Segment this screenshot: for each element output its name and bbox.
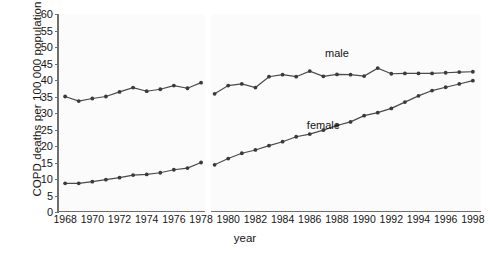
panel-break-gap — [205, 14, 211, 212]
data-point-female — [226, 157, 230, 161]
x-tick-label: 1998 — [461, 214, 484, 225]
y-tick-label: 20 — [41, 141, 53, 152]
x-tick-label: 1968 — [53, 214, 76, 225]
data-point-male — [376, 66, 380, 70]
y-tick-label: 15 — [41, 157, 53, 168]
data-point-male — [226, 84, 230, 88]
data-point-male — [335, 72, 339, 76]
x-tick-label: 1994 — [407, 214, 430, 225]
data-point-male — [90, 97, 94, 101]
data-point-male — [403, 72, 407, 76]
data-point-female — [403, 100, 407, 104]
data-point-male — [281, 73, 285, 77]
data-point-male — [104, 95, 108, 99]
y-tick-label: 35 — [41, 91, 53, 102]
data-point-male — [349, 73, 353, 77]
data-point-female — [417, 94, 421, 98]
data-point-male — [294, 75, 298, 79]
y-tick-label: 5 — [47, 190, 53, 201]
chart-figure: COPD deaths per 100 000 population year … — [0, 0, 490, 253]
y-tick-label: 25 — [41, 124, 53, 135]
data-point-female — [131, 173, 135, 177]
data-point-female — [444, 85, 448, 89]
series-line-male — [65, 83, 201, 101]
data-point-male — [77, 99, 81, 103]
x-tick-label: 1974 — [135, 214, 158, 225]
x-tick-label: 1978 — [189, 214, 212, 225]
data-point-female — [267, 144, 271, 148]
data-point-male — [389, 72, 393, 76]
x-tick-label: 1970 — [81, 214, 104, 225]
x-tick-label: 1976 — [162, 214, 185, 225]
data-point-male — [172, 84, 176, 88]
data-point-male — [444, 71, 448, 75]
x-tick-label: 1996 — [434, 214, 457, 225]
data-point-female — [118, 176, 122, 180]
data-point-male — [362, 74, 366, 78]
series-label-female: female — [307, 119, 340, 131]
data-point-male — [417, 72, 421, 76]
data-point-male — [199, 81, 203, 85]
y-tick-label: 30 — [41, 108, 53, 119]
data-point-female — [471, 79, 475, 83]
data-point-female — [254, 148, 258, 152]
data-point-female — [172, 168, 176, 172]
data-point-male — [63, 95, 67, 99]
data-point-male — [240, 82, 244, 86]
data-point-female — [63, 181, 67, 185]
data-point-male — [158, 87, 162, 91]
y-tick-label: 0 — [47, 207, 53, 218]
data-point-male — [131, 86, 135, 90]
data-point-male — [308, 69, 312, 73]
x-tick-label: 1988 — [325, 214, 348, 225]
data-point-male — [254, 86, 258, 90]
x-tick-label: 1980 — [217, 214, 240, 225]
data-point-male — [267, 75, 271, 79]
data-point-female — [199, 161, 203, 165]
x-tick-label: 1986 — [298, 214, 321, 225]
data-point-male — [186, 86, 190, 90]
data-point-female — [104, 178, 108, 182]
data-point-female — [376, 111, 380, 115]
data-point-male — [145, 89, 149, 93]
data-point-female — [281, 140, 285, 144]
y-tick-label: 55 — [41, 25, 53, 36]
y-tick-label: 60 — [41, 9, 53, 20]
data-point-female — [457, 82, 461, 86]
y-tick-label: 45 — [41, 58, 53, 69]
data-point-male — [321, 74, 325, 78]
x-tick-label: 1990 — [352, 214, 375, 225]
series-layer — [57, 14, 481, 212]
data-point-female — [186, 166, 190, 170]
data-point-male — [471, 70, 475, 74]
series-label-male: male — [325, 47, 349, 59]
data-point-female — [145, 172, 149, 176]
data-point-female — [308, 132, 312, 136]
data-point-female — [77, 181, 81, 185]
series-line-female — [65, 163, 201, 184]
data-point-female — [240, 151, 244, 155]
x-tick-label: 1992 — [380, 214, 403, 225]
data-point-male — [213, 92, 217, 96]
data-point-female — [90, 180, 94, 184]
y-tick-label: 40 — [41, 75, 53, 86]
x-axis-title: year — [0, 232, 490, 244]
x-tick-label: 1982 — [244, 214, 267, 225]
plot-area: 051015202530354045505560 196819701972197… — [57, 14, 481, 212]
series-line-female — [215, 81, 473, 165]
data-point-female — [389, 106, 393, 110]
data-point-male — [457, 70, 461, 74]
y-tick-label: 50 — [41, 42, 53, 53]
x-tick-label: 1984 — [271, 214, 294, 225]
data-point-female — [362, 114, 366, 118]
data-point-female — [430, 89, 434, 93]
data-point-female — [158, 171, 162, 175]
x-tick-label: 1972 — [108, 214, 131, 225]
data-point-female — [294, 135, 298, 139]
data-point-male — [430, 72, 434, 76]
data-point-female — [213, 163, 217, 167]
data-point-male — [118, 90, 122, 94]
data-point-female — [349, 120, 353, 124]
y-tick-label: 10 — [41, 174, 53, 185]
